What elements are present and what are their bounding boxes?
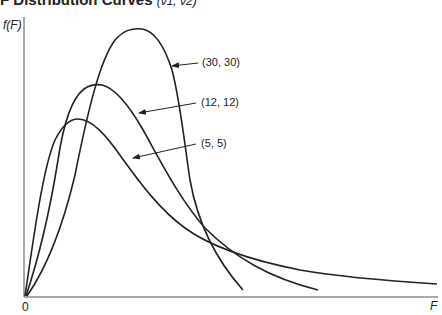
label-5-5: (5, 5) <box>201 137 227 149</box>
curve-5-5 <box>25 119 437 296</box>
f-distribution-chart: f(F) F 0 (30, 30) (12, 12) (5, 5) <box>0 0 442 315</box>
arrow-12-12 <box>139 103 196 113</box>
label-12-12: (12, 12) <box>201 96 239 108</box>
y-axis-label: f(F) <box>3 18 22 32</box>
label-30-30: (30, 30) <box>202 56 240 68</box>
origin-label: 0 <box>22 300 29 314</box>
arrow-30-30 <box>172 63 198 66</box>
curve-30-30 <box>27 29 243 296</box>
x-axis-label: F <box>430 299 438 313</box>
